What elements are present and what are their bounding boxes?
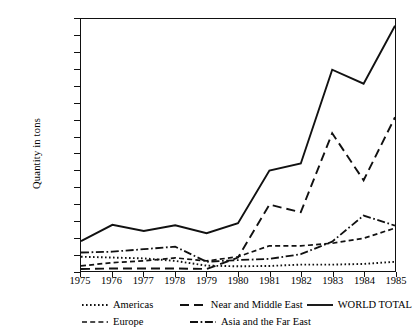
chart-legend: AmericasNear and Middle EastWORLD TOTAL … [82,296,412,330]
x-tick-mark [333,272,334,277]
legend-label: Europe [113,316,143,327]
legend-line-swatch-icon [190,317,216,327]
legend-label: Asia and the Far East [221,316,311,327]
series-line [81,26,395,241]
plot-area [80,18,396,272]
x-tick-mark [270,272,271,277]
legend-item-near-and-middle-east[interactable]: Near and Middle East [180,299,307,310]
x-tick-mark [206,272,207,277]
legend-line-swatch-icon [180,300,206,310]
legend-line-swatch-icon [307,300,333,310]
x-tick-mark [238,272,239,277]
legend-line-swatch-icon [82,317,108,327]
x-tick-mark [175,272,176,277]
line-chart: Quantity in tons 0123456789101112131415 … [0,0,417,336]
series-lines [81,19,395,271]
legend-line-swatch-icon [82,300,108,310]
legend-label: Americas [113,299,153,310]
x-tick-mark [301,272,302,277]
legend-item-world-total[interactable]: WORLD TOTAL [307,299,412,310]
legend-row: AmericasNear and Middle EastWORLD TOTAL [82,296,412,313]
legend-label: WORLD TOTAL [338,299,412,310]
x-tick-mark [80,272,81,277]
series-line [81,117,395,269]
x-tick-mark [112,272,113,277]
x-tick-mark [143,272,144,277]
legend-item-asia-and-the-far-east[interactable]: Asia and the Far East [190,316,330,327]
x-tick-mark [396,272,397,277]
legend-label: Near and Middle East [211,299,303,310]
legend-item-americas[interactable]: Americas [82,299,180,310]
legend-item-europe[interactable]: Europe [82,316,190,327]
legend-row: EuropeAsia and the Far East [82,313,412,330]
x-tick-mark [364,272,365,277]
y-axis-title: Quantity in tons [31,74,42,234]
x-tick-label: 1985 [376,276,416,287]
